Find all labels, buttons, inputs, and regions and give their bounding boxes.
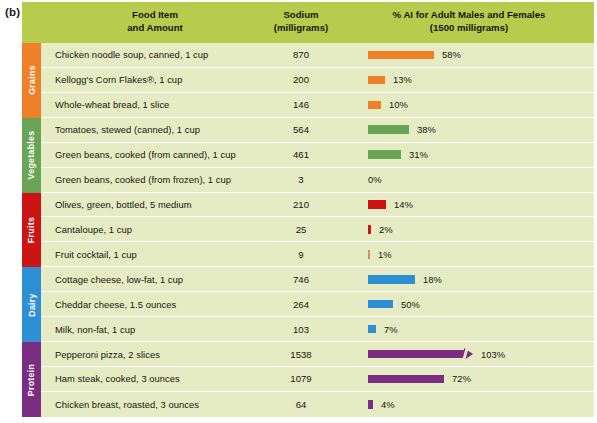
table-rows: Chicken noodle soup, canned, 1 cup87058%…: [41, 43, 594, 417]
percent-ai-label: 1%: [378, 249, 392, 260]
cell-food-item: Cheddar cheese, 1.5 ounces: [55, 292, 176, 316]
cell-sodium-milligrams: 9: [240, 242, 362, 266]
cell-food-item: Cottage cheese, low-fat, 1 cup: [55, 267, 183, 291]
cell-food-item: Olives, green, bottled, 5 medium: [55, 193, 192, 217]
table-row: Olives, green, bottled, 5 medium21014%: [41, 193, 594, 218]
percent-ai-bar: [368, 225, 371, 234]
table-row: Fruit cocktail, 1 cup91%: [41, 242, 594, 267]
column-header-food-line2: and Amount: [60, 22, 250, 35]
cell-percent-ai: 1%: [368, 242, 594, 266]
cell-sodium-milligrams: 1079: [240, 367, 362, 391]
table-row: Cottage cheese, low-fat, 1 cup74618%: [41, 267, 594, 292]
percent-ai-bar: [368, 150, 401, 159]
food-group-label-dairy: Dairy: [22, 267, 41, 342]
cell-percent-ai: 58%: [368, 43, 594, 67]
percent-ai-label: 10%: [389, 99, 408, 110]
food-group-rail: GrainsVegetablesFruitsDairyProtein: [22, 43, 41, 417]
column-header-percent-line2: (1500 milligrams): [344, 22, 594, 35]
cell-sodium-milligrams: 103: [240, 317, 362, 341]
percent-ai-label: 14%: [394, 199, 413, 210]
food-group-label-fruits: Fruits: [22, 193, 41, 268]
percent-ai-bar: [368, 325, 376, 334]
cell-sodium-milligrams: 25: [240, 217, 362, 241]
column-header-food-line1: Food Item: [60, 9, 250, 22]
percent-ai-label: 0%: [368, 174, 382, 185]
percent-ai-bar: [368, 76, 385, 85]
cell-percent-ai: 18%: [368, 267, 594, 291]
cell-percent-ai: 10%: [368, 93, 594, 117]
cell-sodium-milligrams: 264: [240, 292, 362, 316]
cell-percent-ai: 103%: [368, 342, 594, 366]
cell-percent-ai: 38%: [368, 118, 594, 142]
cell-percent-ai: 14%: [368, 193, 594, 217]
sodium-content-figure: (b) Food Item and Amount Sodium (milligr…: [0, 0, 597, 423]
cell-sodium-milligrams: 564: [240, 118, 362, 142]
food-group-label-grains: Grains: [22, 43, 41, 118]
cell-sodium-milligrams: 461: [240, 143, 362, 167]
table-row: Pepperoni pizza, 2 slices1538103%: [41, 342, 594, 367]
column-header-percent-ai: % AI for Adult Males and Females (1500 m…: [344, 9, 594, 34]
percent-ai-bar: [368, 101, 381, 110]
table-row: Chicken noodle soup, canned, 1 cup87058%: [41, 43, 594, 68]
figure-part-label: (b): [5, 6, 20, 18]
percent-ai-bar: [368, 375, 444, 384]
percent-ai-label: 7%: [384, 324, 398, 335]
cell-percent-ai: 50%: [368, 292, 594, 316]
cell-sodium-milligrams: 746: [240, 267, 362, 291]
cell-sodium-milligrams: 146: [240, 93, 362, 117]
column-header-food: Food Item and Amount: [60, 9, 250, 34]
cell-percent-ai: 31%: [368, 143, 594, 167]
cell-sodium-milligrams: 870: [240, 43, 362, 67]
cell-percent-ai: 0%: [368, 168, 594, 192]
food-group-label-text: Vegetables: [27, 131, 37, 180]
sodium-table: Food Item and Amount Sodium (milligrams)…: [22, 2, 594, 417]
cell-food-item: Tomatoes, stewed (canned), 1 cup: [55, 118, 200, 142]
table-row: Chicken breast, roasted, 3 ounces644%: [41, 392, 594, 417]
table-row: Tomatoes, stewed (canned), 1 cup56438%: [41, 118, 594, 143]
food-group-label-vegetables: Vegetables: [22, 118, 41, 193]
cell-percent-ai: 13%: [368, 68, 594, 92]
percent-ai-label: 2%: [379, 224, 393, 235]
percent-ai-label: 13%: [393, 74, 412, 85]
cell-percent-ai: 4%: [368, 392, 594, 417]
table-row: Kellogg's Corn Flakes®, 1 cup20013%: [41, 68, 594, 93]
table-row: Cheddar cheese, 1.5 ounces26450%: [41, 292, 594, 317]
cell-sodium-milligrams: 64: [240, 392, 362, 417]
cell-percent-ai: 72%: [368, 367, 594, 391]
cell-food-item: Milk, non-fat, 1 cup: [55, 317, 135, 341]
cell-sodium-milligrams: 200: [240, 68, 362, 92]
percent-ai-label: 103%: [481, 349, 505, 360]
cell-food-item: Chicken noodle soup, canned, 1 cup: [55, 43, 208, 67]
percent-ai-label: 38%: [417, 124, 436, 135]
cell-food-item: Chicken breast, roasted, 3 ounces: [55, 392, 199, 417]
food-group-label-text: Protein: [27, 363, 37, 395]
cell-sodium-milligrams: 3: [240, 168, 362, 192]
percent-ai-label: 18%: [423, 274, 442, 285]
percent-ai-bar: [368, 275, 415, 284]
cell-food-item: Whole-wheat bread, 1 slice: [55, 93, 169, 117]
percent-ai-label: 50%: [401, 299, 420, 310]
cell-food-item: Cantaloupe, 1 cup: [55, 217, 132, 241]
percent-ai-label: 31%: [409, 149, 428, 160]
food-group-label-protein: Protein: [22, 342, 41, 417]
percent-ai-bar: [368, 125, 409, 134]
table-row: Ham steak, cooked, 3 ounces107972%: [41, 367, 594, 392]
percent-ai-label: 4%: [381, 399, 395, 410]
percent-ai-bar: [368, 350, 464, 359]
food-group-label-text: Grains: [27, 66, 37, 96]
cell-food-item: Ham steak, cooked, 3 ounces: [55, 367, 180, 391]
table-row: Whole-wheat bread, 1 slice14610%: [41, 93, 594, 118]
food-group-label-text: Fruits: [27, 217, 37, 243]
cell-percent-ai: 7%: [368, 317, 594, 341]
percent-ai-label: 72%: [452, 373, 471, 384]
cell-food-item: Fruit cocktail, 1 cup: [55, 242, 137, 266]
food-group-label-text: Dairy: [27, 293, 37, 317]
cell-percent-ai: 2%: [368, 217, 594, 241]
percent-ai-bar: [368, 250, 370, 259]
percent-ai-bar: [368, 400, 373, 409]
percent-ai-bar: [368, 51, 434, 60]
cell-sodium-milligrams: 1538: [240, 342, 362, 366]
cell-food-item: Kellogg's Corn Flakes®, 1 cup: [55, 68, 182, 92]
percent-ai-bar: [368, 200, 386, 209]
cell-food-item: Pepperoni pizza, 2 slices: [55, 342, 160, 366]
